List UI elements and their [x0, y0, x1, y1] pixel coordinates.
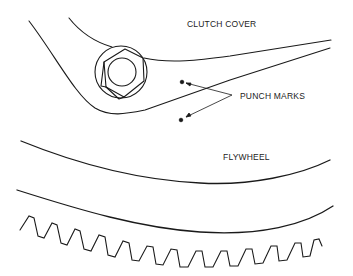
- flywheel-outer-edge: [21, 141, 330, 183]
- punch-marks-label: PUNCH MARKS: [240, 91, 305, 101]
- punch-mark-lower: [179, 118, 183, 122]
- ring-gear-teeth: [20, 216, 322, 267]
- punch-mark-upper: [180, 80, 184, 84]
- flywheel-inner-edge: [17, 190, 333, 233]
- bolt-center: [108, 58, 136, 86]
- clutch-flywheel-diagram: CLUTCH COVER PUNCH MARKS FLYWHEEL: [0, 0, 353, 276]
- clutch-cover-label: CLUTCH COVER: [187, 19, 256, 29]
- clutch-cover-inner-edge: [69, 18, 112, 47]
- hex-bolt-icon: [104, 49, 144, 97]
- clutch-cover-top-edge: [144, 40, 331, 61]
- flywheel-label: FLYWHEEL: [223, 152, 270, 162]
- diagram-drawing: [0, 0, 353, 276]
- leader-line-lower: [186, 95, 232, 117]
